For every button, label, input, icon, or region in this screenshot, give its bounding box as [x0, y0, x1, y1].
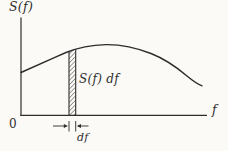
df-width-annotation — [53, 121, 89, 132]
df-interval-label: df — [77, 132, 89, 143]
strip-area-label: S(f) df — [79, 73, 119, 85]
origin-label: 0 — [9, 118, 17, 130]
y-axis-label: S(f) — [9, 1, 33, 14]
df-left-arrowhead-icon — [64, 124, 68, 128]
hatched-strip — [69, 49, 76, 115]
spectral-density-figure: S(f) f 0 S(f) df df — [0, 0, 228, 151]
df-right-arrowhead-icon — [77, 124, 81, 128]
x-axis-label: f — [212, 104, 217, 117]
